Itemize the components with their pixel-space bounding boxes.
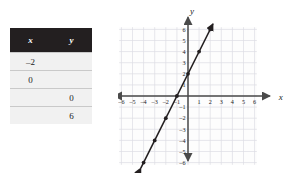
table-header-row: x y: [10, 28, 92, 53]
graph-svg: –6–5–4–3–2–1123456654321–1–2–3–4–5–6 x y: [118, 0, 305, 173]
x-tick-label: –5: [128, 98, 135, 105]
x-tick-label: 6: [253, 98, 256, 105]
data-point: [197, 50, 201, 54]
data-point: [164, 116, 168, 120]
y-tick-label: 5: [182, 37, 185, 44]
table-cell-x: [10, 89, 51, 107]
table-row: –2: [10, 53, 92, 71]
y-tick-label: –4: [178, 137, 185, 144]
table-row: 0: [10, 71, 92, 89]
data-point: [142, 161, 146, 165]
table-cell-y: 6: [51, 107, 92, 125]
x-tick-label: –6: [118, 98, 124, 105]
data-point: [186, 72, 190, 76]
y-tick-label: 3: [182, 59, 185, 66]
y-tick-label: 4: [182, 48, 185, 55]
x-tick-label: 3: [220, 98, 223, 105]
y-axis-label: y: [189, 6, 194, 16]
table-cell-x: [10, 107, 51, 125]
xy-value-table: x y –2 0 0 6: [10, 28, 92, 124]
x-tick-label: –3: [151, 98, 158, 105]
table-row: 6: [10, 107, 92, 125]
table-cell-y: [51, 71, 92, 89]
table-cell-x: 0: [10, 71, 51, 89]
x-tick-label: 5: [242, 98, 245, 105]
data-point: [153, 139, 157, 143]
x-tick-label: 1: [198, 98, 201, 105]
table-cell-y: 0: [51, 89, 92, 107]
data-point: [175, 94, 179, 98]
table-header-y: y: [51, 28, 92, 53]
y-tick-label: –5: [178, 148, 185, 155]
x-tick-label: 4: [231, 98, 234, 105]
y-tick-label: –2: [178, 114, 185, 121]
x-tick-label: –4: [140, 98, 147, 105]
coordinate-plane-graph: –6–5–4–3–2–1123456654321–1–2–3–4–5–6 x y: [118, 0, 305, 173]
y-tick-label: 2: [182, 70, 185, 77]
x-axis-label: x: [278, 92, 283, 102]
table-header-x: x: [10, 28, 51, 53]
y-tick-label: –3: [178, 126, 185, 133]
table-cell-x: –2: [10, 53, 51, 71]
x-tick-label: 2: [209, 98, 212, 105]
x-tick-label: –2: [162, 98, 169, 105]
y-tick-label: –6: [178, 159, 185, 166]
data-point: [208, 28, 212, 32]
table-cell-y: [51, 53, 92, 71]
table-row: 0: [10, 89, 92, 107]
y-tick-label: 6: [182, 26, 185, 33]
y-tick-label: –1: [178, 103, 185, 110]
